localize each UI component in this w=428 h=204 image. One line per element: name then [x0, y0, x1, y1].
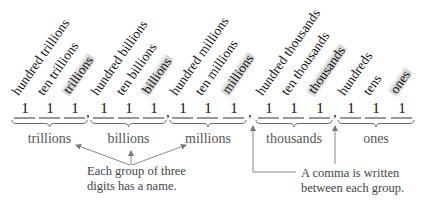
group-comma: ,: [86, 104, 90, 120]
digit: 1: [172, 100, 194, 116]
digit: 1: [365, 100, 387, 116]
digit: 1: [197, 100, 219, 116]
digit: 1: [340, 100, 362, 116]
group-name-note-line-1: Each group of three: [87, 164, 186, 179]
group-comma: ,: [248, 104, 252, 120]
group-label-ones: ones: [336, 131, 416, 147]
digit: 1: [258, 100, 280, 116]
digit: 1: [64, 100, 86, 116]
group-name-note: Each group of three digits has a name.: [87, 164, 186, 194]
group-comma: ,: [166, 104, 170, 120]
group-comma: ,: [333, 104, 337, 120]
group-label-millions: millions: [168, 131, 248, 147]
digit: 1: [309, 100, 331, 116]
digit: 1: [93, 100, 115, 116]
group-name-note-line-2: digits has a name.: [87, 179, 186, 194]
digit: 1: [118, 100, 140, 116]
group-label-thousands: thousands: [254, 131, 334, 147]
digit: 1: [283, 100, 305, 116]
comma-note-line-2: between each group.: [301, 181, 404, 196]
group-label-trillions: trillions: [10, 131, 90, 147]
group-label-billions: billions: [89, 131, 169, 147]
comma-note: A comma is written between each group.: [301, 166, 404, 196]
place-value-diagram: hundred trillions1ten trillions1trillion…: [0, 0, 428, 204]
digit: 1: [143, 100, 165, 116]
digit: 1: [39, 100, 61, 116]
digit: 1: [391, 100, 413, 116]
group-name-arrows: [76, 145, 186, 165]
digit: 1: [223, 100, 245, 116]
digit: 1: [14, 100, 36, 116]
comma-note-line-1: A comma is written: [301, 166, 404, 181]
